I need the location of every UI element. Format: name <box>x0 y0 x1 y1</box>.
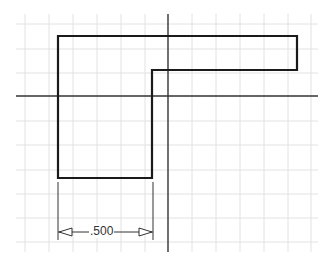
arrow-left-icon <box>59 228 72 236</box>
grid <box>16 14 318 252</box>
dimension-label: .500 <box>89 224 114 238</box>
drawing-canvas <box>0 0 331 266</box>
part-outline[interactable] <box>58 36 297 178</box>
